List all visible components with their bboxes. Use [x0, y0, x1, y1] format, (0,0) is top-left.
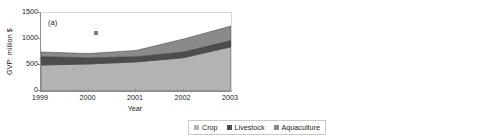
x-tick-label: 1999 — [32, 94, 48, 101]
panel-label-a: (a) — [48, 18, 57, 27]
y-tick-label: 1500 — [16, 8, 38, 15]
x-axis-ticks-a: 19992000200120022003 — [40, 92, 230, 104]
legend-swatch-icon — [274, 125, 279, 130]
x-tick-label: 2000 — [80, 94, 96, 101]
chart-panel-b: 010002000300040005000 (b) 19992000200120… — [248, 0, 498, 118]
x-tick-label: 2002 — [175, 94, 191, 101]
legend-item: Livestock — [227, 124, 265, 131]
chart-panel-a: GVP: million $ 050010001500 (a) 19992000… — [0, 0, 248, 118]
legend-item: Crop — [194, 124, 218, 131]
legend-label: Aquaculture — [282, 124, 320, 131]
x-tick-mark — [40, 89, 41, 92]
x-tick-mark — [135, 89, 136, 92]
x-tick-mark — [230, 89, 231, 92]
annotation-marker-a — [94, 31, 98, 35]
stacked-area-svg-a — [41, 13, 231, 91]
legend-item: Aquaculture — [274, 124, 320, 131]
x-axis-title-a: Year — [40, 104, 230, 113]
figure-stacked-area-charts: GVP: million $ 050010001500 (a) 19992000… — [0, 0, 498, 140]
legend-label: Crop — [202, 124, 218, 131]
x-tick-mark — [183, 89, 184, 92]
x-tick-label: 2003 — [222, 94, 238, 101]
legend-swatch-icon — [194, 125, 199, 130]
chart-legend: CropLivestockAquaculture — [188, 120, 326, 135]
y-tick-label: 1000 — [16, 34, 38, 41]
y-tick-label: 500 — [16, 60, 38, 67]
x-tick-label: 2001 — [127, 94, 143, 101]
y-axis-ticks-a: 050010001500 — [16, 12, 38, 90]
legend-label: Livestock — [235, 124, 265, 131]
plot-area-a — [40, 12, 232, 92]
y-axis-title-a: GVP: million $ — [2, 12, 16, 90]
legend-swatch-icon — [227, 125, 232, 130]
x-tick-mark — [88, 89, 89, 92]
